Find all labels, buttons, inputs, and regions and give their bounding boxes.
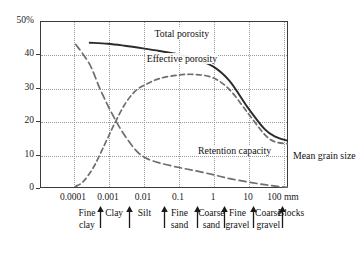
gridline-horizontal (41, 89, 287, 90)
category-label-line1: Coarse (198, 208, 224, 220)
category-label: Clay (105, 208, 123, 220)
y-axis-tick-mark (36, 155, 40, 156)
mean-grain-size-line1: Mean grain (293, 150, 338, 161)
plot-area (40, 21, 288, 188)
y-axis-tick-label: 20 (0, 115, 34, 125)
category-label-line2: sand (198, 220, 224, 232)
y-axis-tick-label: 10 (0, 149, 34, 159)
series-label-retention-capacity: Retention capacity (197, 145, 272, 156)
category-label: Finesand (171, 208, 188, 231)
gridline-vertical (109, 22, 110, 187)
gridline-vertical (144, 22, 145, 187)
gridline-vertical (284, 22, 285, 187)
category-boundary-arrow (96, 206, 105, 228)
y-axis-tick-mark (36, 54, 40, 55)
gridline-vertical (249, 22, 250, 187)
category-label-line1: Fine (78, 208, 95, 220)
x-axis-tick-label: 10 (243, 192, 253, 203)
gridline-vertical (214, 22, 215, 187)
y-axis-tick-mark (36, 121, 40, 122)
category-label-line1: Silt (138, 208, 151, 220)
gridline-horizontal (41, 156, 287, 157)
category-label: Fineclay (78, 208, 95, 231)
category-label: Finegravel (226, 208, 250, 231)
mean-grain-size-line2: size (340, 150, 355, 161)
category-label-line1: Fine (226, 208, 250, 220)
category-label-line2: gravel (226, 220, 250, 232)
category-label: Blocks (278, 208, 304, 220)
category-label-line1: Blocks (278, 208, 304, 220)
category-label: Coarsesand (198, 208, 224, 231)
y-axis-tick-label: 40 (0, 48, 34, 58)
category-boundary-arrow (125, 206, 134, 228)
y-axis-tick-mark (36, 88, 40, 89)
x-axis-tick-label: 1 (211, 192, 216, 203)
x-axis-tick-label: 0.1 (172, 192, 184, 203)
gridline-vertical (179, 22, 180, 187)
mean-grain-size-annotation: Mean grain size (293, 150, 359, 162)
gridline-horizontal (41, 122, 287, 123)
category-label-line1: Clay (105, 208, 123, 220)
y-axis-tick-mark (36, 188, 40, 189)
category-label-line2: sand (171, 220, 188, 232)
y-axis-tick-label: 0 (0, 182, 34, 192)
x-axis-tick-label: 0.0001 (60, 192, 86, 203)
category-label-line1: Fine (171, 208, 188, 220)
category-label-line2: gravel (255, 220, 281, 232)
category-boundary-arrow (160, 206, 169, 228)
series-label-effective-porosity: Effective porosity (146, 53, 218, 64)
category-label-line2: clay (78, 220, 95, 232)
x-axis-tick-label: 0.001 (97, 192, 118, 203)
chart-root: 50%403020100 0.00010.0010.010.1110100 mm… (0, 0, 360, 253)
series-label-total-porosity: Total porosity (154, 28, 211, 39)
x-axis-tick-label: 100 mm (267, 192, 298, 203)
category-label: Silt (138, 208, 151, 220)
y-axis-tick-label: 50% (0, 15, 34, 25)
y-axis-tick-label: 30 (0, 82, 34, 92)
x-axis-tick-label: 0.01 (135, 192, 152, 203)
gridline-vertical (74, 22, 75, 187)
